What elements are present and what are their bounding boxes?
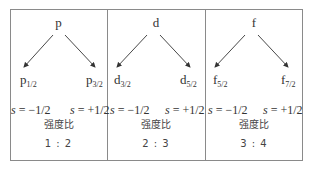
panel-f: f f5/2 f7/2 s = −1/2 s = +1/2 强度比 3 : 4 [205, 9, 303, 161]
intensity-ratio-label: 强度比 [205, 116, 303, 131]
ratio-value: 1 : 2 [10, 138, 107, 149]
left-level-label: d3/2 [114, 72, 131, 89]
intensity-ratio-label: 强度比 [107, 116, 205, 131]
panel-d: d d3/2 d5/2 s = −1/2 s = +1/2 强度比 2 : 3 [107, 9, 205, 161]
right-level-label: f7/2 [281, 72, 296, 89]
ratio-value: 2 : 3 [107, 138, 205, 149]
left-level-label: p1/2 [20, 72, 37, 89]
panel-p: p p1/2 p3/2 s = −1/2 s = +1/2 强度比 1 : 2 [10, 9, 107, 161]
right-level-label: d5/2 [180, 72, 197, 89]
left-level-label: f5/2 [213, 72, 228, 89]
intensity-ratio-label: 强度比 [10, 116, 107, 131]
right-level-label: p3/2 [86, 72, 103, 89]
ratio-value: 3 : 4 [205, 138, 303, 149]
